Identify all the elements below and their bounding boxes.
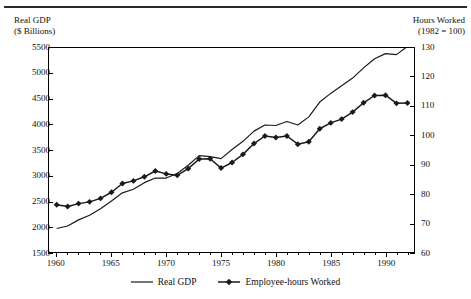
y-tick-label-left: 4000: [32, 120, 50, 129]
x-tick-mark-minor: [232, 253, 233, 255]
x-tick-mark-minor: [309, 253, 310, 255]
y-tick-label-right: 100: [421, 131, 435, 140]
x-tick-mark-minor: [199, 253, 200, 255]
y-tick-label-left: 4500: [32, 94, 50, 103]
x-tick-mark-minor: [243, 253, 244, 255]
x-tick-mark-minor: [375, 253, 376, 255]
y-tick-label-left: 5000: [32, 68, 50, 77]
x-tick-mark-major: [386, 253, 387, 257]
x-tick-label: 1965: [91, 259, 131, 268]
x-tick-mark-minor: [67, 253, 68, 255]
x-tick-mark-minor: [364, 253, 365, 255]
data-point-marker: [65, 204, 71, 210]
y-tick-label-right: 80: [421, 190, 430, 199]
x-tick-mark-minor: [408, 253, 409, 255]
y-tick-label-left: 3000: [32, 171, 50, 180]
x-tick-mark-major: [166, 253, 167, 257]
series-svg: [49, 48, 414, 252]
top-divider-rule: [4, 6, 467, 8]
x-tick-label: 1980: [256, 259, 296, 268]
x-tick-mark-major: [276, 253, 277, 257]
data-point-marker: [163, 171, 169, 177]
x-tick-mark-minor: [353, 253, 354, 255]
y-tick-mark-right: [410, 135, 415, 136]
y-tick-mark-right: [410, 47, 415, 48]
x-tick-label: 1990: [366, 259, 406, 268]
x-tick-mark-minor: [298, 253, 299, 255]
right-axis-title: Hours Worked (1982 = 100): [413, 15, 465, 37]
x-tick-mark-minor: [265, 253, 266, 255]
y-tick-label-right: 70: [421, 219, 430, 228]
x-tick-mark-minor: [100, 253, 101, 255]
legend-label: Employee-hours Worked: [245, 277, 340, 287]
y-tick-mark-right: [410, 165, 415, 166]
x-tick-mark-minor: [320, 253, 321, 255]
x-tick-label: 1975: [201, 259, 241, 268]
x-tick-mark-minor: [122, 253, 123, 255]
y-tick-mark-right: [410, 224, 415, 225]
series-line: [57, 48, 408, 229]
x-tick-mark-major: [56, 253, 57, 257]
y-tick-mark-right: [410, 194, 415, 195]
x-tick-mark-minor: [287, 253, 288, 255]
legend-label: Real GDP: [158, 277, 197, 287]
series-1: [57, 48, 408, 229]
data-point-marker: [152, 168, 158, 174]
y-tick-label-left: 5500: [32, 43, 50, 52]
data-point-marker: [273, 134, 279, 140]
y-tick-label-right: 60: [421, 249, 430, 258]
x-tick-mark-minor: [155, 253, 156, 255]
x-tick-label: 1970: [146, 259, 186, 268]
x-tick-mark-minor: [89, 253, 90, 255]
data-point-marker: [87, 199, 93, 205]
data-point-marker: [130, 178, 136, 184]
legend-swatch-line: [131, 277, 153, 287]
x-tick-mark-minor: [78, 253, 79, 255]
x-tick-mark-minor: [188, 253, 189, 255]
x-tick-mark-minor: [144, 253, 145, 255]
data-point-marker: [76, 201, 82, 207]
x-tick-mark-minor: [342, 253, 343, 255]
x-tick-label: 1985: [311, 259, 351, 268]
x-tick-mark-minor: [177, 253, 178, 255]
data-point-marker: [98, 195, 104, 201]
y-tick-mark-right: [410, 106, 415, 107]
y-tick-label-right: 130: [421, 43, 435, 52]
y-tick-label-right: 110: [421, 101, 434, 110]
chart-legend: Real GDPEmployee-hours Worked: [0, 277, 471, 287]
data-point-marker: [141, 174, 147, 180]
x-tick-mark-major: [331, 253, 332, 257]
data-point-marker: [54, 202, 60, 208]
x-tick-mark-minor: [133, 253, 134, 255]
legend-item: Real GDP: [131, 277, 197, 287]
y-tick-label-left: 2500: [32, 197, 50, 206]
y-tick-label-right: 90: [421, 160, 430, 169]
series-2: [54, 92, 411, 209]
y-tick-mark-right: [410, 253, 415, 254]
legend-item: Employee-hours Worked: [218, 277, 340, 287]
x-tick-mark-major: [221, 253, 222, 257]
x-tick-mark-major: [111, 253, 112, 257]
x-tick-mark-minor: [397, 253, 398, 255]
figure-container: Real GDP ($ Billions) Hours Worked (1982…: [0, 0, 471, 299]
y-tick-label-left: 3500: [32, 146, 50, 155]
left-axis-title: Real GDP ($ Billions): [14, 15, 55, 37]
y-tick-label-right: 120: [421, 72, 435, 81]
x-tick-mark-minor: [254, 253, 255, 255]
x-tick-mark-minor: [210, 253, 211, 255]
x-tick-label: 1960: [36, 259, 76, 268]
y-tick-label-left: 1500: [32, 249, 50, 258]
legend-swatch-line-diamond: [218, 277, 240, 287]
data-point-marker: [328, 120, 334, 126]
y-tick-label-left: 2000: [32, 223, 50, 232]
plot-area: [48, 47, 415, 253]
y-tick-mark-right: [410, 76, 415, 77]
